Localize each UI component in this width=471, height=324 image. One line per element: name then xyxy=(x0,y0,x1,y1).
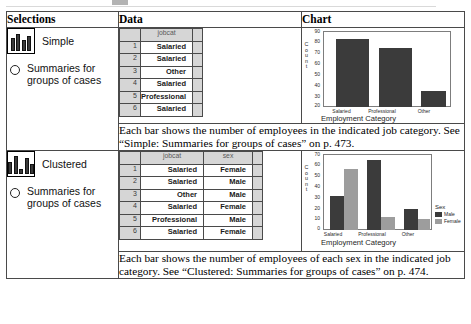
data-grid-header-row: jobcat sex xyxy=(120,152,263,165)
bar-salaried-male[interactable] xyxy=(330,196,344,230)
cell-sex[interactable]: Male xyxy=(204,189,253,202)
data-row[interactable]: 6 Salaried Female xyxy=(120,227,263,240)
table-row: Clustered Summaries for groups of cases … xyxy=(7,151,465,252)
radio-button-icon[interactable] xyxy=(10,65,20,75)
radio-label-simple: Summaries for groups of cases xyxy=(27,63,118,86)
y-tick: 60 xyxy=(308,161,320,167)
y-tick: 30 xyxy=(308,194,320,200)
selection-type-simple[interactable]: Simple xyxy=(7,28,118,54)
cell-jobcat[interactable]: Salaried xyxy=(141,79,193,92)
column-header-jobcat[interactable]: jobcat xyxy=(141,152,204,165)
row-number: 1 xyxy=(120,164,141,177)
cell-sex[interactable]: Female xyxy=(204,227,253,240)
data-row[interactable]: 6 Salaried xyxy=(120,104,203,117)
cell-jobcat[interactable]: Other xyxy=(141,189,204,202)
cell-sex[interactable]: Male xyxy=(204,214,253,227)
page-root: Selections Data Chart Simple xyxy=(0,0,471,324)
data-row[interactable]: 1 Salaried Female xyxy=(120,164,263,177)
caption-text-clustered: Each bar shows the number of employees o… xyxy=(119,252,464,278)
simple-bar-chart: C o u n t 90 80 70 60 50 40 30 20 xyxy=(302,28,454,123)
grid-pad xyxy=(193,79,203,92)
simple-bar-chart-icon xyxy=(7,28,35,54)
y-tick: 40 xyxy=(308,183,320,189)
x-axis-title: Employment Category xyxy=(321,114,396,123)
clustered-bar-chart: C o u n t 70 60 50 40 30 20 10 0 xyxy=(302,151,457,251)
cell-jobcat[interactable]: Professional xyxy=(141,91,193,104)
grid-pad xyxy=(193,91,203,104)
bar-professional-male[interactable] xyxy=(367,160,381,230)
caption-cell-clustered: Each bar shows the number of employees o… xyxy=(119,252,465,279)
chart-cell-simple: C o u n t 90 80 70 60 50 40 30 20 xyxy=(302,28,465,124)
selection-cell-clustered: Clustered Summaries for groups of cases xyxy=(7,151,119,279)
cell-jobcat[interactable]: Other xyxy=(141,66,193,79)
data-row[interactable]: 2 Salaried xyxy=(120,54,203,67)
x-tick: Professional xyxy=(350,231,394,237)
grid-pad xyxy=(193,104,203,117)
clustered-bar-chart-icon xyxy=(7,151,35,177)
comparison-table: Selections Data Chart Simple xyxy=(6,11,465,279)
cell-sex[interactable]: Male xyxy=(204,177,253,190)
table-row: Simple Summaries for groups of cases job… xyxy=(7,28,465,124)
y-tick: 70 xyxy=(308,151,320,157)
chart-legend: Sex Male Female xyxy=(435,204,461,224)
grid-pad xyxy=(253,164,263,177)
bar-other-female[interactable] xyxy=(418,219,430,230)
bar-professional-female[interactable] xyxy=(381,217,395,230)
radio-option-simple[interactable]: Summaries for groups of cases xyxy=(7,63,118,86)
cell-jobcat[interactable]: Salaried xyxy=(141,164,204,177)
data-row[interactable]: 4 Salaried Female xyxy=(120,202,263,215)
y-tick: 30 xyxy=(308,93,320,99)
cell-sex[interactable]: Female xyxy=(204,202,253,215)
cell-jobcat[interactable]: Salaried xyxy=(141,54,193,67)
y-tick: 50 xyxy=(308,71,320,77)
cell-jobcat[interactable]: Salaried xyxy=(141,202,204,215)
top-artifact xyxy=(112,0,128,5)
data-row[interactable]: 2 Salaried Male xyxy=(120,177,263,190)
legend-entry-female[interactable]: Female xyxy=(435,218,461,224)
data-row[interactable]: 5 Professional xyxy=(120,91,203,104)
data-row[interactable]: 4 Salaried xyxy=(120,79,203,92)
bar-other[interactable] xyxy=(421,91,446,107)
cell-jobcat[interactable]: Salaried xyxy=(141,104,193,117)
grid-pad xyxy=(253,152,263,165)
grid-pad xyxy=(253,227,263,240)
y-tick: 60 xyxy=(308,60,320,66)
radio-option-clustered[interactable]: Summaries for groups of cases xyxy=(7,186,118,209)
data-cell-simple: jobcat 1 Salaried 2 Salaried xyxy=(119,28,302,124)
row-number: 3 xyxy=(120,189,141,202)
grid-corner xyxy=(120,152,141,165)
cell-jobcat[interactable]: Salaried xyxy=(141,177,204,190)
table-header-row: Selections Data Chart xyxy=(7,12,465,28)
data-cell-clustered: jobcat sex 1 Salaried Female xyxy=(119,151,302,252)
data-grid-header-row: jobcat xyxy=(120,29,203,42)
bar-other-male[interactable] xyxy=(404,209,418,230)
data-row[interactable]: 3 Other Male xyxy=(120,189,263,202)
row-number: 4 xyxy=(120,202,141,215)
cell-jobcat[interactable]: Professional xyxy=(141,214,204,227)
radio-button-icon[interactable] xyxy=(10,188,20,198)
bar-salaried-female[interactable] xyxy=(344,169,358,230)
row-number: 6 xyxy=(120,104,141,117)
data-row[interactable]: 1 Salaried xyxy=(120,41,203,54)
x-tick: Other xyxy=(392,231,424,237)
data-row[interactable]: 3 Other xyxy=(120,66,203,79)
column-header-jobcat[interactable]: jobcat xyxy=(141,29,193,42)
y-tick: 20 xyxy=(308,205,320,211)
grid-pad xyxy=(193,66,203,79)
grid-pad xyxy=(253,202,263,215)
y-tick: 50 xyxy=(308,172,320,178)
column-header-sex[interactable]: sex xyxy=(204,152,253,165)
cell-jobcat[interactable]: Salaried xyxy=(141,41,193,54)
radio-label-clustered: Summaries for groups of cases xyxy=(27,186,118,209)
x-axis-title: Employment Category xyxy=(321,238,396,247)
legend-label-male: Male xyxy=(444,211,455,217)
selection-type-clustered[interactable]: Clustered xyxy=(7,151,118,177)
cell-jobcat[interactable]: Salaried xyxy=(141,227,204,240)
bar-salaried[interactable] xyxy=(336,39,369,107)
bar-professional[interactable] xyxy=(379,48,412,107)
cell-sex[interactable]: Female xyxy=(204,164,253,177)
row-number: 3 xyxy=(120,66,141,79)
legend-entry-male[interactable]: Male xyxy=(435,211,461,217)
row-number: 5 xyxy=(120,214,141,227)
data-row[interactable]: 5 Professional Male xyxy=(120,214,263,227)
